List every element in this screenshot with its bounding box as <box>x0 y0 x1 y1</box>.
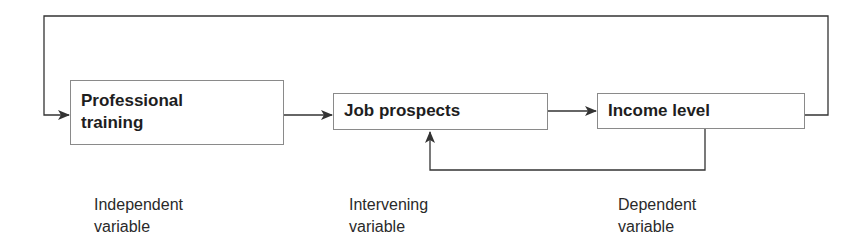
label-line2: variable <box>94 216 183 238</box>
node-text: Job prospects <box>344 100 547 122</box>
label-line1: Dependent <box>618 194 696 216</box>
diagram-canvas: Professional training Job prospects Inco… <box>0 0 868 249</box>
label-dependent-variable: Dependent variable <box>618 194 696 238</box>
node-income-level: Income level <box>597 93 805 129</box>
node-text-line1: Professional <box>81 90 283 112</box>
node-text-line2: training <box>81 112 283 134</box>
label-line1: Intervening <box>349 194 428 216</box>
label-line2: variable <box>618 216 696 238</box>
label-line1: Independent <box>94 194 183 216</box>
label-line2: variable <box>349 216 428 238</box>
label-intervening-variable: Intervening variable <box>349 194 428 238</box>
node-text: Income level <box>608 100 804 122</box>
feedback-arrow-income-to-job <box>430 129 705 170</box>
node-professional-training: Professional training <box>70 80 284 145</box>
node-job-prospects: Job prospects <box>333 93 548 130</box>
label-independent-variable: Independent variable <box>94 194 183 238</box>
